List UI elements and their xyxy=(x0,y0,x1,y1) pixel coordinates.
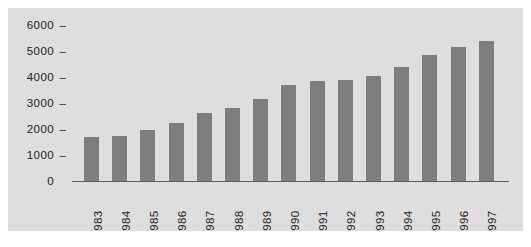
bar xyxy=(281,85,296,181)
bar xyxy=(84,137,99,181)
y-axis-tick-label: 2000 xyxy=(18,122,54,136)
x-axis-tick-label-text: 1985 xyxy=(148,211,160,231)
y-axis-tick-mark: – xyxy=(54,44,72,58)
y-axis-tick: 4000– xyxy=(18,70,72,84)
plot-area: 1983198419851986198719881989199019911992… xyxy=(72,8,523,231)
y-axis-tick: 5000– xyxy=(18,44,72,58)
y-axis-tick-label: 1000 xyxy=(18,148,54,162)
x-axis-tick-label-text: 1984 xyxy=(120,211,132,231)
x-axis-tick-label: 1985 xyxy=(140,184,155,228)
x-axis-tick-label-text: 1989 xyxy=(261,211,273,231)
x-axis-tick-label: 1988 xyxy=(225,184,240,228)
x-axis-tick-label: 1991 xyxy=(310,184,325,228)
y-axis-tick-mark: – xyxy=(54,18,72,32)
bar xyxy=(112,136,127,182)
y-axis-tick-label: 0 xyxy=(18,174,54,188)
y-axis-tick-mark: – xyxy=(54,96,72,110)
x-axis-tick-label: 1983 xyxy=(84,184,99,228)
y-axis-tick: 0 xyxy=(18,174,72,188)
x-axis-tick-label: 1989 xyxy=(253,184,268,228)
bar xyxy=(366,76,381,181)
y-axis-tick-mark: – xyxy=(54,70,72,84)
x-axis-tick-label-text: 1983 xyxy=(92,211,104,231)
y-axis-tick: 1000– xyxy=(18,148,72,162)
y-axis-tick-mark: – xyxy=(54,122,72,136)
bar xyxy=(225,108,240,181)
bar xyxy=(338,80,353,181)
x-axis-tick-label: 1997 xyxy=(479,184,494,228)
x-axis-tick-label: 1986 xyxy=(169,184,184,228)
y-axis: 01000–2000–3000–4000–5000–6000– xyxy=(8,8,72,231)
x-axis-labels: 1983198419851986198719881989199019911992… xyxy=(72,184,509,231)
x-axis-tick-label: 1993 xyxy=(366,184,381,228)
x-axis-tick-label-text: 1994 xyxy=(402,211,414,231)
bar xyxy=(451,47,466,181)
bar xyxy=(310,81,325,181)
y-axis-tick-label: 4000 xyxy=(18,70,54,84)
x-axis-tick-label-text: 1986 xyxy=(176,211,188,231)
x-axis-tick-label-text: 1997 xyxy=(486,211,498,231)
bar-series xyxy=(72,8,509,182)
x-axis-tick-label-text: 1988 xyxy=(233,211,245,231)
x-axis-tick-label-text: 1992 xyxy=(345,211,357,231)
x-axis-tick-label-text: 1993 xyxy=(374,211,386,231)
bar xyxy=(197,113,212,181)
x-axis-tick-label: 1992 xyxy=(338,184,353,228)
x-axis-tick-label-text: 1990 xyxy=(289,211,301,231)
bar xyxy=(479,41,494,181)
bar xyxy=(253,99,268,181)
y-axis-tick-label: 3000 xyxy=(18,96,54,110)
x-axis-tick-label: 1996 xyxy=(451,184,466,228)
bar xyxy=(422,55,437,181)
y-axis-tick-mark: – xyxy=(54,148,72,162)
x-axis-tick-label: 1995 xyxy=(422,184,437,228)
x-axis-tick-label-text: 1991 xyxy=(317,211,329,231)
y-axis-tick: 3000– xyxy=(18,96,72,110)
y-axis-tick: 2000– xyxy=(18,122,72,136)
y-axis-tick: 6000– xyxy=(18,18,72,32)
x-axis-tick-label: 1987 xyxy=(197,184,212,228)
x-axis-tick-label-text: 1987 xyxy=(204,211,216,231)
y-axis-tick-label: 5000 xyxy=(18,44,54,58)
x-axis-tick-label-text: 1996 xyxy=(458,211,470,231)
x-axis-tick-label: 1990 xyxy=(281,184,296,228)
bar xyxy=(169,123,184,182)
x-axis-tick-label: 1984 xyxy=(112,184,127,228)
y-axis-tick-label: 6000 xyxy=(18,18,54,32)
bar xyxy=(394,67,409,181)
bar xyxy=(140,130,155,181)
x-axis-tick-label: 1994 xyxy=(394,184,409,228)
x-axis-tick-label-text: 1995 xyxy=(430,211,442,231)
bar-chart-figure: 01000–2000–3000–4000–5000–6000– 19831984… xyxy=(8,8,523,231)
